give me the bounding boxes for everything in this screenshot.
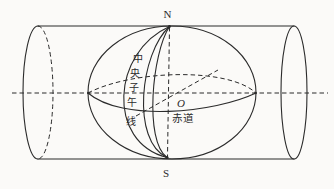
center-point-label: O <box>177 97 185 109</box>
equator-label: 赤道 <box>172 112 194 124</box>
central-meridian-char-5: 线 <box>126 115 136 127</box>
north-pole-point <box>168 25 171 28</box>
equator-back-arc <box>88 75 256 93</box>
south-pole-point <box>165 156 168 159</box>
central-meridian-label: 中 央 子 午 线 <box>126 52 143 127</box>
central-meridian-char-4: 午 <box>127 96 137 108</box>
polar-axis-dashed-line <box>168 27 170 157</box>
central-meridian-char-1: 中 <box>133 52 143 64</box>
central-meridian-char-3: 子 <box>129 82 139 93</box>
equator-right-vertex-point <box>254 92 257 95</box>
central-meridian-char-2: 央 <box>130 67 140 79</box>
projection-diagram: N S O 赤道 中 央 子 午 线 <box>0 0 334 189</box>
equator-left-vertex-point <box>87 92 90 95</box>
sphere-in-cylinder-figure: N S O 赤道 中 央 子 午 线 <box>0 0 334 189</box>
south-pole-label: S <box>163 167 169 179</box>
north-pole-label: N <box>164 8 172 20</box>
